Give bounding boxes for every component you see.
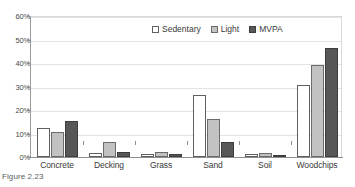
bar-mvpa-grass: [169, 154, 182, 157]
x-axis-label-sand: Sand: [203, 160, 222, 170]
x-axis-label-grass: Grass: [150, 160, 172, 170]
x-axis-tick-mark: [239, 141, 240, 145]
y-axis-tick-mark: [27, 157, 30, 158]
bar-mvpa-woodchips: [325, 48, 338, 158]
legend-item-sedentary: Sedentary: [152, 24, 201, 34]
legend-label: MVPA: [259, 24, 282, 34]
y-axis-tick-mark: [27, 110, 30, 111]
y-axis-tick-mark: [27, 40, 30, 41]
x-axis-line: [30, 157, 343, 158]
y-axis-tick-mark: [27, 63, 30, 64]
bar-group: [239, 16, 291, 157]
bar-group: [83, 16, 135, 157]
bar-set: [31, 16, 83, 157]
legend-label: Sedentary: [162, 24, 201, 34]
bar-set: [83, 16, 135, 157]
x-axis-tick-mark: [291, 141, 292, 145]
legend-swatch-icon: [249, 26, 256, 33]
bar-light-soil: [259, 153, 272, 157]
x-axis-tick-mark: [187, 141, 188, 145]
bar-set: [187, 16, 239, 157]
y-axis-tick-mark: [27, 16, 30, 17]
x-axis-label-concrete: Concrete: [40, 160, 74, 170]
y-axis-tick-mark: [27, 134, 30, 135]
chart-legend: SedentaryLightMVPA: [152, 24, 283, 34]
bar-group: [135, 16, 187, 157]
bar-light-woodchips: [311, 65, 324, 157]
bar-group: [31, 16, 83, 157]
x-axis-tick-mark: [135, 141, 136, 145]
bar-light-decking: [103, 142, 116, 158]
legend-swatch-icon: [211, 26, 218, 33]
bar-set: [239, 16, 291, 157]
bar-mvpa-concrete: [65, 121, 78, 157]
figure-caption: Figure 2.23: [2, 172, 44, 181]
bar-sedentary-grass: [141, 154, 154, 157]
bar-mvpa-sand: [221, 142, 234, 157]
legend-label: Light: [221, 24, 239, 34]
bar-sedentary-concrete: [37, 128, 50, 157]
bar-sedentary-woodchips: [297, 85, 310, 157]
bar-sedentary-sand: [193, 95, 206, 157]
y-axis-tick-mark: [27, 87, 30, 88]
legend-item-mvpa: MVPA: [249, 24, 282, 34]
bar-sedentary-soil: [245, 154, 258, 157]
bar-sedentary-decking: [89, 153, 102, 157]
bar-mvpa-decking: [117, 152, 130, 157]
legend-item-light: Light: [211, 24, 239, 34]
bar-set: [135, 16, 187, 157]
x-axis-tick-mark: [83, 141, 84, 145]
bar-mvpa-soil: [273, 155, 286, 157]
legend-swatch-icon: [152, 26, 159, 33]
bar-set: [291, 16, 343, 157]
bar-light-sand: [207, 119, 220, 157]
bar-group: [187, 16, 239, 157]
chart-plot-area: 0%10%20%30%40%50%60% ConcreteDeckingGras…: [0, 0, 355, 165]
x-axis-label-decking: Decking: [94, 160, 124, 170]
x-axis-label-soil: Soil: [258, 160, 272, 170]
bar-light-grass: [155, 152, 168, 157]
bar-light-concrete: [51, 132, 64, 157]
x-axis-label-woodchips: Woodchips: [297, 160, 338, 170]
bar-group: [291, 16, 343, 157]
figure-container: 0%10%20%30%40%50%60% ConcreteDeckingGras…: [0, 0, 355, 187]
bar-groups: [31, 16, 342, 157]
